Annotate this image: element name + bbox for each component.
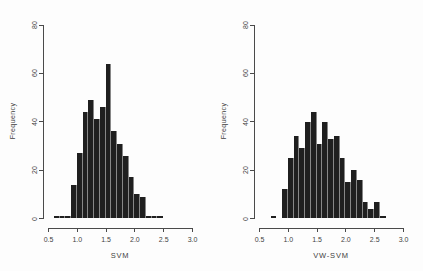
y-tick	[250, 73, 254, 74]
y-tick	[39, 218, 43, 219]
x-axis-title: VW-SVM	[259, 251, 403, 260]
y-tick-label: 20	[31, 166, 38, 174]
x-tick	[288, 228, 289, 232]
y-tick	[39, 73, 43, 74]
x-tick	[374, 228, 375, 232]
x-tick-label: 2.5	[159, 236, 169, 243]
y-tick	[250, 218, 254, 219]
x-tick	[259, 228, 260, 232]
y-tick-label: 80	[242, 21, 249, 29]
y-axis-line	[254, 25, 255, 219]
figure-histograms: Frequency SVM 0204060800.51.01.52.02.53.…	[0, 0, 423, 271]
x-tick-label: 2.5	[370, 236, 380, 243]
y-tick-label: 0	[242, 217, 249, 221]
y-tick	[39, 25, 43, 26]
x-tick	[134, 228, 135, 232]
y-tick	[250, 25, 254, 26]
y-axis-line	[43, 25, 44, 219]
histogram-bar	[271, 216, 277, 218]
x-tick-label: 1.0	[283, 236, 293, 243]
y-tick-label: 0	[31, 217, 38, 221]
y-axis-title: Frequency	[9, 103, 16, 140]
histogram-bar	[157, 216, 163, 218]
y-tick-label: 40	[242, 118, 249, 126]
y-axis-title: Frequency	[220, 103, 227, 140]
x-tick	[77, 228, 78, 232]
histogram-bar	[380, 216, 386, 218]
x-tick-label: 3.0	[188, 236, 198, 243]
x-tick-label: 0.5	[44, 236, 54, 243]
x-tick-label: 2.0	[341, 236, 351, 243]
x-tick	[317, 228, 318, 232]
panel-svm-histogram: Frequency SVM 0204060800.51.01.52.02.53.…	[0, 0, 211, 271]
y-tick-label: 40	[31, 118, 38, 126]
x-axis-line	[48, 228, 193, 229]
x-tick	[192, 228, 193, 232]
x-tick-label: 1.5	[101, 236, 111, 243]
x-tick	[106, 228, 107, 232]
x-tick	[48, 228, 49, 232]
y-tick	[39, 121, 43, 122]
y-tick	[39, 170, 43, 171]
x-tick	[163, 228, 164, 232]
x-axis-line	[259, 228, 404, 229]
panel-vwsvm-histogram: Frequency VW-SVM 0204060800.51.01.52.02.…	[211, 0, 423, 271]
x-axis-title: SVM	[48, 251, 192, 260]
x-tick-label: 1.5	[312, 236, 322, 243]
y-tick	[250, 121, 254, 122]
y-tick	[250, 170, 254, 171]
y-tick-label: 60	[242, 70, 249, 78]
y-tick-label: 20	[242, 166, 249, 174]
y-tick-label: 60	[31, 70, 38, 78]
x-tick	[403, 228, 404, 232]
x-tick	[345, 228, 346, 232]
x-tick-label: 2.0	[130, 236, 140, 243]
x-tick-label: 0.5	[255, 236, 265, 243]
x-tick-label: 3.0	[399, 236, 409, 243]
x-tick-label: 1.0	[72, 236, 82, 243]
y-tick-label: 80	[31, 21, 38, 29]
